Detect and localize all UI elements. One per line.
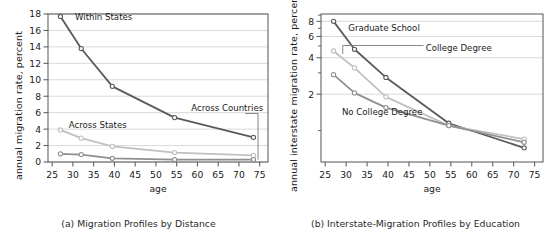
y-tick-label-8: 8 <box>308 16 314 27</box>
series-label-college-degree: College Degree <box>426 43 492 53</box>
data-point <box>173 116 177 120</box>
x-tick-label-70: 70 <box>508 169 520 180</box>
series-across-countries <box>58 152 255 162</box>
data-point <box>58 14 62 18</box>
panel-a-caption: (a) Migration Profiles by Distance <box>0 218 277 229</box>
data-point <box>352 91 356 95</box>
x-tick-label-60: 60 <box>192 169 204 180</box>
series-across-states <box>58 128 255 158</box>
data-point <box>251 157 255 161</box>
data-point <box>522 140 526 144</box>
data-point <box>384 95 388 99</box>
y-tick-label-14: 14 <box>29 41 41 52</box>
x-tick-label-40: 40 <box>382 169 394 180</box>
y-tick-label-0: 0 <box>35 156 41 167</box>
data-point <box>79 136 83 140</box>
data-point <box>110 144 114 148</box>
panel-a-plot: 0246810121416182530354045505560657075age… <box>0 2 277 207</box>
x-tick-label-65: 65 <box>212 169 224 180</box>
figure-root: annual migration rate, percent 024681012… <box>0 0 554 241</box>
data-point <box>110 84 114 88</box>
series-line <box>334 21 525 148</box>
y-tick-label-10: 10 <box>29 74 41 85</box>
x-tick-label-45: 45 <box>403 169 415 180</box>
data-point <box>331 19 335 23</box>
series-line <box>334 51 525 139</box>
x-tick-label-35: 35 <box>361 169 373 180</box>
series-line <box>60 16 253 137</box>
data-point <box>251 135 255 139</box>
y-tick-label-2: 2 <box>308 89 314 100</box>
y-tick-label-8: 8 <box>35 91 41 102</box>
data-point <box>522 146 526 150</box>
series-label-graduate-school: Graduate School <box>348 23 420 33</box>
data-point <box>110 156 114 160</box>
data-point <box>331 49 335 53</box>
series-line <box>60 130 253 155</box>
x-tick-label-25: 25 <box>319 169 331 180</box>
series-graduate-school <box>331 19 526 150</box>
x-tick-label-65: 65 <box>487 169 499 180</box>
data-point <box>173 157 177 161</box>
y-tick-label-12: 12 <box>29 58 41 69</box>
x-axis-title: age <box>423 183 440 194</box>
data-point <box>58 152 62 156</box>
x-tick-label-25: 25 <box>46 169 58 180</box>
series-label-across-countries: Across Countries <box>191 103 263 113</box>
y-tick-label-4: 4 <box>35 124 41 135</box>
x-tick-label-60: 60 <box>466 169 478 180</box>
x-tick-label-75: 75 <box>529 169 541 180</box>
x-tick-label-40: 40 <box>109 169 121 180</box>
data-point <box>447 123 451 127</box>
panel-a: annual migration rate, percent 024681012… <box>0 0 277 241</box>
panel-b-plot: 24682530354045505560657075ageGraduate Sc… <box>277 2 554 207</box>
y-tick-label-4: 4 <box>308 52 314 63</box>
x-tick-label-45: 45 <box>129 169 141 180</box>
panel-b-caption: (b) Interstate-Migration Profiles by Edu… <box>277 218 554 229</box>
y-tick-label-6: 6 <box>35 107 41 118</box>
x-tick-label-50: 50 <box>424 169 436 180</box>
data-point <box>352 66 356 70</box>
data-point <box>79 46 83 50</box>
data-point <box>352 47 356 51</box>
x-tick-label-55: 55 <box>171 169 183 180</box>
series-label-across-states: Across States <box>69 120 127 130</box>
x-tick-label-50: 50 <box>150 169 162 180</box>
y-tick-label-2: 2 <box>35 140 41 151</box>
data-point <box>331 73 335 77</box>
y-tick-label-16: 16 <box>29 25 41 36</box>
series-label-within-states: Within States <box>75 12 133 22</box>
panel-b: annual interstate migration rate, percen… <box>277 0 554 241</box>
x-tick-label-70: 70 <box>233 169 245 180</box>
data-point <box>173 150 177 154</box>
data-point <box>58 128 62 132</box>
x-tick-label-30: 30 <box>340 169 352 180</box>
x-axis-title: age <box>149 183 166 194</box>
series-label-no-college-degree: No College Degree <box>342 107 423 117</box>
data-point <box>79 153 83 157</box>
x-tick-label-30: 30 <box>67 169 79 180</box>
x-tick-label-35: 35 <box>88 169 100 180</box>
y-tick-label-18: 18 <box>29 8 41 19</box>
y-tick-label-6: 6 <box>308 31 314 42</box>
x-tick-label-55: 55 <box>445 169 457 180</box>
x-tick-label-75: 75 <box>254 169 266 180</box>
data-point <box>384 75 388 79</box>
